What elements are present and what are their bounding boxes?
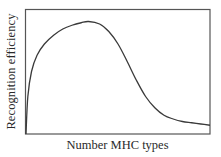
efficiency-curve [26,21,210,134]
plot-frame [26,10,211,135]
chart-plot [0,0,221,157]
y-axis-label-text: Recognition efficiency [4,13,19,129]
x-axis-label: Number MHC types [25,138,210,153]
y-axis-label: Recognition efficiency [0,9,22,134]
